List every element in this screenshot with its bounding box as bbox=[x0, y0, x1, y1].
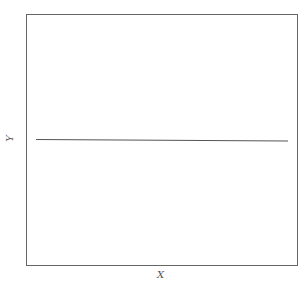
x-axis-label: X bbox=[157, 269, 164, 280]
data-line bbox=[36, 140, 288, 142]
plot-canvas bbox=[0, 0, 307, 288]
y-axis-label: Y bbox=[4, 135, 15, 142]
